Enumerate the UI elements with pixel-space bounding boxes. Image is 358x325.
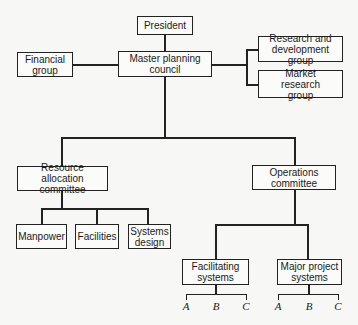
node-systems-design: Systems design — [128, 224, 171, 249]
connector-committees — [61, 137, 296, 139]
node-resource-allocation-committee: Resource allocation committee — [17, 166, 108, 191]
connector-president-master — [164, 35, 166, 51]
connector-major-abc — [278, 294, 339, 295]
node-research-development-group: Research and development group — [258, 36, 343, 62]
label-facilitating-c: C — [242, 300, 249, 312]
label-major-b: B — [306, 300, 313, 312]
connector-to-facilities — [96, 208, 98, 224]
connector-to-major-project — [307, 224, 309, 259]
node-operations-committee: Operations committee — [252, 165, 336, 190]
node-major-project-systems: Major project systems — [277, 259, 342, 285]
label-major-a: A — [275, 300, 282, 312]
connector-master-down — [164, 77, 166, 138]
connector-facilitating-abc — [186, 294, 247, 295]
connector-operations-children — [215, 224, 309, 226]
connector-financial-master — [73, 64, 118, 66]
label-facilitating-a: A — [183, 300, 190, 312]
connector-to-manpower — [41, 208, 43, 224]
node-facilities: Facilities — [75, 224, 119, 249]
connector-to-market — [246, 84, 258, 86]
node-manpower: Manpower — [16, 224, 67, 249]
connector-master-right — [212, 64, 247, 66]
connector-right-vertical — [246, 49, 248, 85]
node-financial-group: Financial group — [17, 52, 73, 77]
node-facilitating-systems: Facilitating systems — [182, 259, 249, 285]
connector-to-systems-design — [147, 208, 149, 224]
connector-resource-children — [41, 208, 149, 210]
node-market-research-group: Market research group — [258, 70, 343, 98]
label-facilitating-b: B — [213, 300, 220, 312]
connector-operations-down — [294, 190, 296, 225]
connector-to-operations — [294, 137, 296, 165]
node-master-planning-council: Master planning council — [118, 51, 212, 77]
node-president: President — [137, 16, 193, 35]
connector-to-facilitating — [215, 224, 217, 259]
label-major-c: C — [334, 300, 341, 312]
connector-to-rnd — [246, 49, 258, 51]
